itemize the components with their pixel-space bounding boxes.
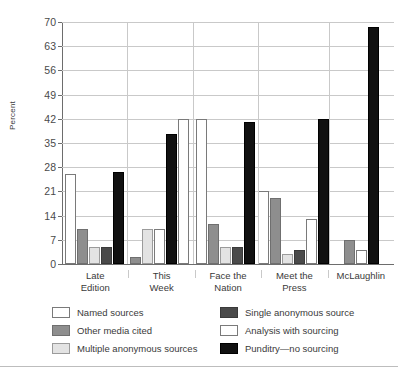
legend-label: Other media cited (77, 325, 152, 336)
x-axis-labels: LateEditionThisWeekFace theNationMeet th… (62, 270, 394, 300)
x-axis-label-line: Nation (195, 282, 261, 294)
x-axis-label-line: This (128, 270, 194, 282)
bar[interactable] (65, 174, 76, 264)
bar[interactable] (142, 229, 153, 264)
x-axis-label-line: Week (128, 282, 194, 294)
legend-swatch-icon (220, 325, 238, 336)
y-tick-label: 56 (22, 64, 56, 76)
x-axis-separator (328, 270, 329, 278)
x-axis-separator (128, 270, 129, 278)
legend-label: Named sources (77, 307, 144, 318)
y-tick-mark (58, 167, 62, 168)
bar-group (127, 22, 192, 264)
y-tick-label: 7 (22, 234, 56, 246)
y-tick-label: 21 (22, 185, 56, 197)
y-tick-mark (58, 191, 62, 192)
y-tick-label: 0 (22, 258, 56, 270)
x-axis-label: LateEdition (62, 270, 128, 300)
legend-item[interactable]: Other media cited (52, 321, 214, 339)
legend-item[interactable]: Single anonymous source (220, 303, 382, 321)
legend-item[interactable]: Analysis with sourcing (220, 321, 382, 339)
y-tick-mark (58, 46, 62, 47)
y-tick-label: 28 (22, 161, 56, 173)
y-tick-mark (58, 70, 62, 71)
x-axis-separator (261, 270, 262, 278)
legend-label: Analysis with sourcing (245, 325, 338, 336)
legend-label: Multiple anonymous sources (77, 343, 197, 354)
y-tick-mark (58, 240, 62, 241)
legend-swatch-icon (52, 307, 70, 318)
legend-item[interactable]: Multiple anonymous sources (52, 339, 214, 357)
x-axis-label: McLaughlin (328, 270, 394, 300)
bar-group (62, 22, 127, 264)
y-tick-mark (58, 95, 62, 96)
y-tick-mark (58, 264, 62, 265)
bar[interactable] (196, 119, 207, 264)
footer-divider (0, 366, 398, 367)
chart-legend: Named sourcesSingle anonymous sourceOthe… (52, 303, 382, 357)
x-axis-label-line: Meet the (261, 270, 327, 282)
x-axis-label-line: Face the (195, 270, 261, 282)
x-axis-label-line: McLaughlin (328, 270, 394, 282)
bar[interactable] (368, 27, 379, 264)
y-tick-label: 49 (22, 89, 56, 101)
legend-swatch-icon (52, 325, 70, 336)
x-axis-label-line: Press (261, 282, 327, 294)
x-axis-separator (195, 270, 196, 278)
bar[interactable] (101, 247, 112, 264)
bar[interactable] (232, 247, 243, 264)
bar[interactable] (270, 198, 281, 264)
y-tick-label: 63 (22, 40, 56, 52)
bar[interactable] (89, 247, 100, 264)
legend-label: Punditry—no sourcing (245, 343, 338, 354)
bar-group (329, 22, 394, 264)
legend-swatch-icon (220, 343, 238, 354)
gridline (62, 264, 394, 265)
x-axis-label: Meet thePress (261, 270, 327, 300)
bar[interactable] (318, 119, 329, 264)
axis-area (62, 22, 394, 264)
bar-group (193, 22, 258, 264)
bar[interactable] (166, 134, 177, 264)
bar[interactable] (306, 219, 317, 264)
bar[interactable] (258, 191, 269, 264)
y-tick-mark (58, 22, 62, 23)
y-tick-mark (58, 216, 62, 217)
y-tick-label: 35 (22, 137, 56, 149)
bar[interactable] (282, 254, 293, 264)
bar[interactable] (244, 122, 255, 264)
bar[interactable] (154, 229, 165, 264)
chart-title-clipped (0, 0, 398, 3)
x-axis-label-line: Edition (62, 282, 128, 294)
legend-swatch-icon (52, 343, 70, 354)
bar[interactable] (356, 250, 367, 264)
y-tick-label: 70 (22, 16, 56, 28)
y-tick-mark (58, 119, 62, 120)
x-axis-label: Face theNation (195, 270, 261, 300)
y-tick-label: 14 (22, 210, 56, 222)
bar[interactable] (113, 172, 124, 264)
bar[interactable] (220, 247, 231, 264)
legend-item[interactable]: Punditry—no sourcing (220, 339, 382, 357)
bar[interactable] (77, 229, 88, 264)
bar[interactable] (130, 257, 141, 264)
chart-page: Percent 07142128354249566370 LateEdition… (0, 0, 398, 373)
legend-label: Single anonymous source (245, 307, 354, 318)
y-tick-label: 42 (22, 113, 56, 125)
x-axis-label-line: Late (62, 270, 128, 282)
bar[interactable] (294, 250, 305, 264)
y-axis-title: Percent (8, 101, 17, 130)
legend-item[interactable]: Named sources (52, 303, 214, 321)
x-axis-label: ThisWeek (128, 270, 194, 300)
bar[interactable] (178, 119, 189, 264)
bar-group (258, 22, 329, 264)
legend-swatch-icon (220, 307, 238, 318)
bar[interactable] (208, 224, 219, 264)
plot-area: Percent 07142128354249566370 (0, 18, 398, 268)
y-tick-mark (58, 143, 62, 144)
bar[interactable] (344, 240, 355, 264)
bar-groups (62, 22, 394, 264)
y-axis-ticks: 07142128354249566370 (22, 18, 56, 268)
